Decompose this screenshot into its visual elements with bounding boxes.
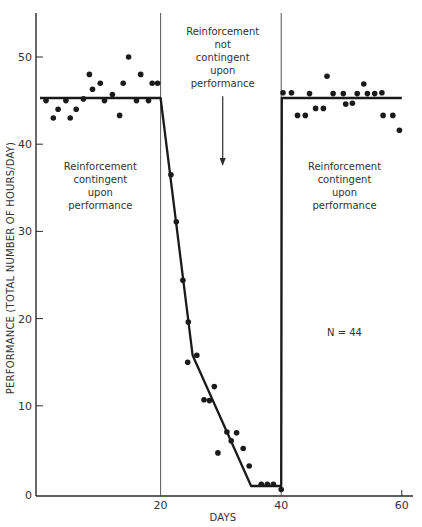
trend-path <box>40 98 402 486</box>
annotations: ReinforcementcontingentuponperformanceRe… <box>64 26 381 338</box>
data-point <box>87 72 93 78</box>
data-point <box>313 106 319 112</box>
data-point <box>51 115 57 121</box>
data-point <box>102 98 108 104</box>
annotation-text: Reinforcementnotcontingentuponperformanc… <box>186 26 259 89</box>
data-point <box>212 384 218 390</box>
data-point <box>120 80 126 86</box>
annotation-n_label: N = 44 <box>327 327 362 338</box>
data-point <box>361 81 367 87</box>
data-point <box>215 450 221 456</box>
y-axis-title: PERFORMANCE (TOTAL NUMBER OF HOURS/DAY) <box>5 142 16 394</box>
data-point <box>201 397 207 403</box>
data-point <box>324 73 330 79</box>
data-point <box>98 80 104 86</box>
performance-chart: 01020304050204060 Reinforcementcontingen… <box>0 0 422 527</box>
annotation-phase2: Reinforcementnotcontingentuponperformanc… <box>186 26 259 166</box>
data-point <box>307 91 313 97</box>
y-tick-label: 30 <box>18 225 32 238</box>
annotation-text: N = 44 <box>327 327 362 338</box>
data-point <box>234 430 240 436</box>
data-point <box>380 113 386 119</box>
x-tick-label: 60 <box>395 499 409 512</box>
data-point <box>350 100 356 106</box>
data-point <box>81 96 87 102</box>
data-point <box>330 91 336 97</box>
x-tick-label: 20 <box>154 499 168 512</box>
data-point <box>390 113 396 119</box>
y-tick-label: 10 <box>18 400 32 413</box>
data-point <box>63 98 69 104</box>
data-point <box>194 352 200 358</box>
data-point <box>246 463 252 469</box>
data-point <box>289 90 295 96</box>
data-point <box>134 98 140 104</box>
data-point <box>278 487 284 493</box>
data-point <box>321 106 327 112</box>
data-point <box>146 98 152 104</box>
data-point <box>90 87 96 93</box>
annotation-text: Reinforcementcontingentuponperformance <box>64 161 137 211</box>
y-tick-label: 40 <box>18 138 32 151</box>
data-point <box>240 446 246 452</box>
data-point <box>303 113 309 119</box>
data-point <box>397 127 403 133</box>
data-point <box>224 429 230 435</box>
data-point <box>110 92 116 98</box>
data-point <box>55 107 61 113</box>
data-point <box>149 80 155 86</box>
data-point <box>207 398 213 404</box>
data-point <box>73 107 79 113</box>
data-point <box>168 172 174 178</box>
data-point <box>138 72 144 78</box>
data-point <box>379 90 385 96</box>
data-point <box>295 113 301 119</box>
data-point <box>372 91 378 97</box>
data-point <box>186 319 192 325</box>
data-point <box>280 90 286 96</box>
data-point <box>271 482 277 488</box>
data-point <box>365 91 371 97</box>
annotation-phase3: Reinforcementcontingentuponperformance <box>308 161 381 211</box>
data-point <box>174 219 180 225</box>
data-point <box>180 277 186 283</box>
arrow-down-icon <box>220 158 226 166</box>
data-point <box>259 482 265 488</box>
data-point <box>228 438 234 444</box>
x-axis-title: DAYS <box>210 512 237 523</box>
data-point <box>354 91 360 97</box>
trend-line <box>40 98 402 486</box>
y-tick-label: 0 <box>25 489 32 502</box>
data-point <box>67 115 73 121</box>
data-point <box>341 91 347 97</box>
annotation-text: Reinforcementcontingentuponperformance <box>308 161 381 211</box>
y-tick-label: 20 <box>18 313 32 326</box>
data-point <box>117 113 123 119</box>
data-point <box>185 359 191 365</box>
y-tick-label: 50 <box>18 51 32 64</box>
annotation-phase1: Reinforcementcontingentuponperformance <box>64 161 137 211</box>
data-point <box>265 482 271 488</box>
data-point <box>43 98 49 104</box>
data-point <box>126 54 132 60</box>
x-tick-label: 40 <box>274 499 288 512</box>
data-point <box>343 101 349 107</box>
data-point <box>155 80 161 86</box>
